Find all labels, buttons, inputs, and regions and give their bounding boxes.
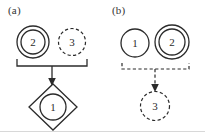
panel-b-group: 1 2 3 — [121, 25, 189, 121]
figure-container: (a) (b) 2 3 — [0, 0, 205, 133]
panel-b-node-3[interactable]: 3 — [141, 92, 170, 121]
panel-a-bracket — [17, 59, 87, 66]
panel-b-bracket — [122, 63, 189, 69]
panel-a-node-3-label: 3 — [69, 36, 75, 48]
panel-b-node-1[interactable]: 1 — [121, 29, 149, 57]
panel-b-node-3-label: 3 — [152, 100, 158, 112]
panel-b-connector — [122, 63, 189, 92]
panel-a-node-1-label: 1 — [50, 101, 56, 113]
diagram-canvas: 2 3 1 — [0, 0, 205, 133]
panel-a-group: 2 3 1 — [17, 26, 87, 130]
panel-a-connector — [17, 59, 87, 86]
panel-b-arrow-head — [151, 84, 159, 92]
panel-b-node-2[interactable]: 2 — [155, 25, 189, 59]
panel-b-node-2-label: 2 — [169, 36, 175, 48]
panel-a-node-1[interactable]: 1 — [29, 84, 77, 130]
panel-b-node-1-label: 1 — [132, 37, 138, 49]
panel-a-node-3[interactable]: 3 — [59, 29, 86, 56]
panel-a-node-2-label: 2 — [30, 36, 36, 48]
panel-a-node-2[interactable]: 2 — [17, 26, 49, 58]
